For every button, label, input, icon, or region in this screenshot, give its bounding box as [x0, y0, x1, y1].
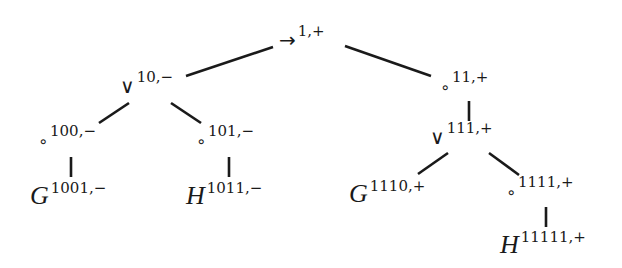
- edge-n10-n100: [99, 103, 129, 123]
- implies-arrow-icon: →: [279, 30, 296, 50]
- edge-n111-n1110: [418, 153, 448, 174]
- node-root: →1,+: [279, 30, 325, 50]
- node-111: ∨111,+: [430, 127, 493, 147]
- variable-G: G: [30, 183, 49, 209]
- node-1011: H1011,−: [186, 183, 262, 209]
- node-11111: H11111,+: [500, 232, 586, 258]
- edge-root-n11: [345, 46, 431, 76]
- variable-H: H: [186, 183, 205, 209]
- node-label: 1,+: [298, 22, 325, 40]
- node-label: 1110,+: [370, 177, 426, 195]
- node-label: 1001,−: [51, 179, 107, 197]
- circle-operator-icon: ∘: [38, 134, 48, 150]
- node-label: 1011,−: [207, 179, 263, 197]
- node-101: ∘101,−: [196, 134, 254, 150]
- node-label: 111,+: [447, 119, 493, 137]
- node-label: 11111,+: [521, 228, 586, 246]
- or-icon: ∨: [430, 127, 445, 147]
- circle-operator-icon: ∘: [506, 185, 516, 201]
- node-label: 100,−: [50, 122, 96, 140]
- node-11: ∘11,+: [440, 80, 488, 96]
- variable-H: H: [500, 232, 519, 258]
- node-1001: G1001,−: [30, 183, 106, 209]
- node-label: 1111,+: [518, 173, 574, 191]
- or-icon: ∨: [120, 76, 135, 96]
- circle-operator-icon: ∘: [440, 80, 450, 96]
- edge-n10-n101: [171, 103, 201, 123]
- node-label: 10,−: [137, 68, 173, 86]
- variable-G: G: [349, 181, 368, 207]
- edge-root-n10: [186, 47, 273, 76]
- node-1110: G1110,+: [349, 181, 425, 207]
- node-label: 11,+: [452, 68, 488, 86]
- node-100: ∘100,−: [38, 134, 96, 150]
- node-label: 101,−: [208, 122, 254, 140]
- circle-operator-icon: ∘: [196, 134, 206, 150]
- node-10: ∨10,−: [120, 76, 173, 96]
- node-1111: ∘1111,+: [506, 185, 574, 201]
- edge-n111-n1111: [489, 153, 519, 175]
